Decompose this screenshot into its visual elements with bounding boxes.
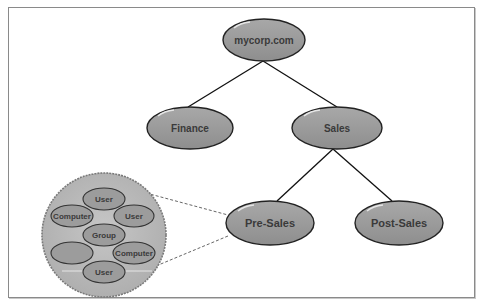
node-finance[interactable]: Finance [147, 107, 233, 149]
edge-sales-postsales [333, 149, 392, 201]
object-user-right[interactable]: User [114, 205, 154, 227]
edge-sales-presales [277, 149, 333, 201]
node-label: Post-Sales [371, 217, 427, 229]
zoom-line-bottom [156, 236, 228, 266]
object-label: Group [92, 231, 116, 240]
object-user-top[interactable]: User [83, 188, 125, 210]
object-blank[interactable] [51, 242, 93, 264]
ou-contents-detail[interactable]: User Computer User Group Computer User [42, 173, 166, 297]
node-sales[interactable]: Sales [292, 107, 382, 149]
object-label: Computer [53, 212, 91, 221]
node-mycorp-com[interactable]: mycorp.com [223, 19, 305, 61]
object-shape [51, 242, 93, 264]
diagram-canvas: mycorp.com Finance Sales Pre-Sales Post-… [0, 0, 482, 306]
object-computer-right[interactable]: Computer [113, 242, 155, 264]
object-label: User [95, 195, 113, 204]
node-label: Pre-Sales [245, 217, 295, 229]
node-label: Sales [324, 123, 351, 134]
object-label: Computer [115, 249, 153, 258]
node-post-sales[interactable]: Post-Sales [355, 201, 443, 245]
object-label: User [95, 268, 113, 277]
node-label: mycorp.com [234, 35, 294, 46]
node-pre-sales[interactable]: Pre-Sales [226, 201, 314, 245]
object-group[interactable]: Group [83, 224, 125, 246]
node-label: Finance [171, 123, 209, 134]
edge-root-sales [263, 61, 337, 107]
edge-root-finance [188, 61, 263, 107]
object-label: User [125, 212, 143, 221]
object-user-bottom[interactable]: User [83, 261, 125, 283]
object-computer-left[interactable]: Computer [51, 205, 93, 227]
